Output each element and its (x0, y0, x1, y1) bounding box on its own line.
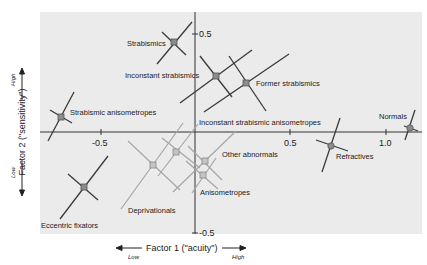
y-axis-title: Factor 2 ("sensitivity") (18, 89, 27, 176)
x-tick-label: 0.5 (284, 139, 297, 148)
x-tick-label: 1.0 (379, 139, 392, 148)
label-former-strabismics: Former strabismics (256, 80, 320, 88)
x-high-label: High (232, 254, 244, 260)
y-tick-label: -0.5 (199, 229, 215, 238)
y-low-label: Low (10, 167, 16, 178)
label-strabismics: Strabismics (127, 40, 166, 48)
label-inconstant-strabismic-anisometropes: Inconstant strabismic anisometropes (199, 119, 321, 127)
y-high-label: High (10, 74, 16, 86)
label-refractives: Refractives (336, 153, 374, 161)
x-tick-label: -0.5 (92, 139, 108, 148)
label-normals: Normals (379, 113, 407, 121)
label-deprivationals: Deprivationals (128, 207, 176, 215)
label-inconstant-strabismics: Inconstant strabismics (125, 72, 199, 80)
label-strabismic-anisometropes: Strabismic anisometropes (70, 109, 156, 117)
x-low-label: Low (128, 254, 139, 260)
y-tick-label: 0.5 (199, 30, 212, 39)
x-axis-title: Factor 1 ("acuity") (146, 244, 217, 253)
label-anisometropes: Anisometropes (200, 189, 250, 197)
label-other-abnormals: Other abnormals (222, 151, 278, 159)
label-eccentric-fixators: Eccentric fixators (41, 222, 98, 230)
